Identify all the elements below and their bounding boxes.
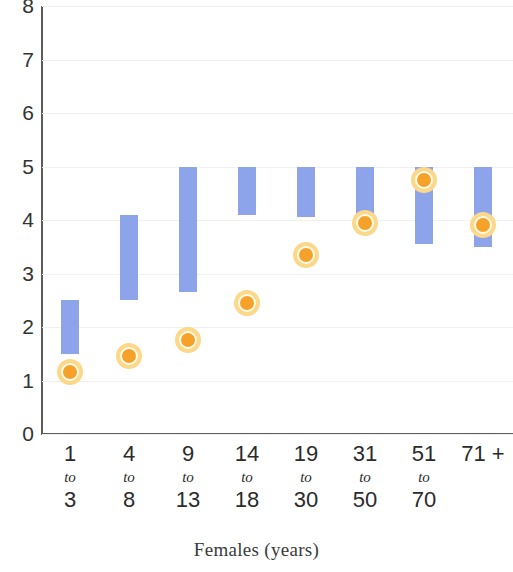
value-marker: [57, 359, 83, 385]
y-tick-label: 8: [8, 0, 34, 16]
y-tick-label: 3: [8, 263, 34, 284]
range-bar: [61, 300, 79, 354]
gridline: [42, 381, 513, 382]
gridline: [42, 434, 513, 435]
value-marker: [116, 343, 142, 369]
range-bar: [120, 215, 138, 301]
y-tick-label: 7: [8, 49, 34, 70]
gridline: [42, 60, 513, 61]
range-bar: [179, 167, 197, 293]
gridline: [42, 167, 513, 168]
value-marker: [470, 212, 496, 238]
x-tick-range-connector: to: [389, 467, 459, 487]
gridline: [42, 274, 513, 275]
value-marker: [352, 210, 378, 236]
range-bar: [297, 167, 315, 218]
range-bar: [238, 167, 256, 215]
y-tick-label: 1: [8, 370, 34, 391]
y-tick-label: 0: [8, 423, 34, 444]
value-marker: [234, 290, 260, 316]
gridline: [42, 220, 513, 221]
gridline: [42, 327, 513, 328]
y-tick-label: 5: [8, 156, 34, 177]
x-axis-title: Females (years): [0, 539, 513, 561]
value-marker: [293, 242, 319, 268]
y-axis-labels: 012345678: [0, 0, 34, 460]
plot-area: [42, 6, 513, 434]
x-tick-label: 71 +: [448, 441, 513, 467]
y-tick-label: 2: [8, 316, 34, 337]
x-tick-range-end: 70: [389, 487, 459, 513]
x-axis-labels: 1to34to89to1314to1819to3031to5051to7071 …: [42, 441, 513, 533]
y-tick-label: 6: [8, 102, 34, 123]
y-tick-label: 4: [8, 209, 34, 230]
value-marker: [175, 327, 201, 353]
gridline: [42, 6, 513, 7]
x-tick-range-start: 71 +: [448, 441, 513, 467]
gridline: [42, 113, 513, 114]
value-marker: [411, 167, 437, 193]
chart-root: 012345678 1to34to89to1314to1819to3031to5…: [0, 0, 513, 572]
